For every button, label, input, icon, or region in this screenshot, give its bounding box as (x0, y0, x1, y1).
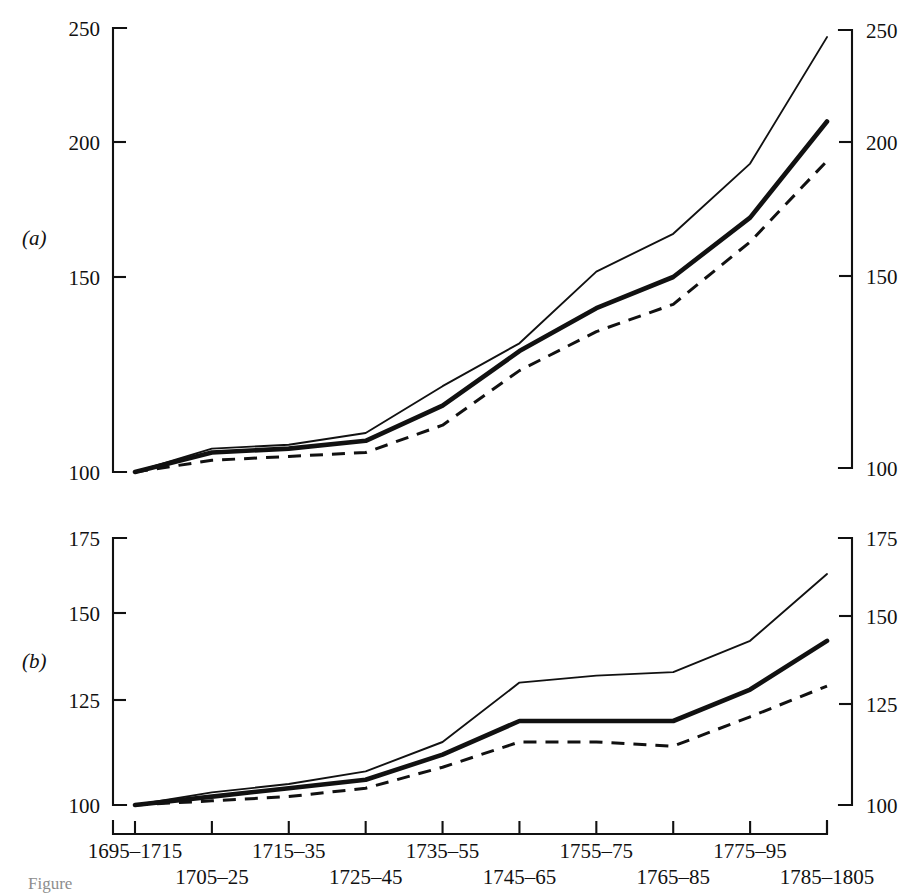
figure-root: 250 200 150 100 250 200 150 100 (a) 175 (0, 0, 919, 896)
panel-b-left-label-150: 150 (69, 602, 101, 626)
x-axis-tick-marks (135, 821, 827, 834)
panel-b-left-axis (113, 538, 126, 805)
x-axis-label-6: 1755–75 (560, 839, 634, 863)
x-axis-label-8: 1775–95 (713, 839, 787, 863)
panel-b-right-label-175: 175 (866, 527, 898, 551)
panel-a-right-axis (839, 30, 852, 468)
x-axis: 1695–17151705–251715–351725–451735–55174… (88, 821, 875, 889)
panel-a-left-label-250: 250 (69, 17, 101, 41)
panel-a-series-upper-thin-solid (135, 37, 827, 472)
panel-b-right-label-125: 125 (866, 693, 898, 717)
panel-b-series-upper-thin-solid (135, 574, 827, 805)
figure-caption-fragment: Figure (28, 874, 72, 894)
panel-b-left-label-100: 100 (69, 794, 101, 818)
x-axis-label-9: 1785–1805 (780, 865, 875, 889)
panel-a-right-label-150: 150 (866, 265, 898, 289)
x-axis-label-7: 1765–85 (636, 865, 710, 889)
panel-a-left-label-200: 200 (69, 131, 101, 155)
panel-a-left-axis (113, 28, 126, 472)
panel-b-right-label-150: 150 (866, 605, 898, 629)
x-axis-label-3: 1725–45 (329, 865, 403, 889)
x-axis-spine (113, 821, 827, 834)
panel-a-right-label-200: 200 (866, 131, 898, 155)
panel-a-tag: (a) (22, 226, 47, 250)
panel-a: 250 200 150 100 250 200 150 100 (a) (22, 17, 898, 485)
panel-b-right-axis (839, 538, 852, 805)
x-axis-label-2: 1715–35 (252, 839, 326, 863)
panel-b-left-label-125: 125 (69, 689, 101, 713)
x-axis-label-4: 1735–55 (406, 839, 480, 863)
panel-b-tag: (b) (22, 649, 47, 673)
panel-a-right-label-250: 250 (866, 19, 898, 43)
panel-a-left-label-150: 150 (69, 266, 101, 290)
x-axis-tick-labels: 1695–17151705–251715–351725–451735–55174… (88, 839, 875, 889)
x-axis-label-5: 1745–65 (483, 865, 557, 889)
chart-canvas: 250 200 150 100 250 200 150 100 (a) 175 (0, 0, 919, 896)
panel-b-series-middle-thick-solid (135, 641, 827, 805)
panel-a-right-label-100: 100 (866, 457, 898, 481)
panel-b-right-label-100: 100 (866, 794, 898, 818)
panel-b-left-label-175: 175 (69, 527, 101, 551)
x-axis-label-0: 1695–1715 (88, 839, 183, 863)
panel-a-series-middle-thick-solid (135, 121, 827, 472)
panel-b: 175 150 125 100 175 150 125 100 (b) (22, 527, 898, 818)
x-axis-label-1: 1705–25 (175, 865, 249, 889)
panel-b-series-lower-dashed (135, 686, 827, 805)
panel-a-left-label-100: 100 (69, 461, 101, 485)
panel-a-series-lower-dashed (135, 161, 827, 472)
